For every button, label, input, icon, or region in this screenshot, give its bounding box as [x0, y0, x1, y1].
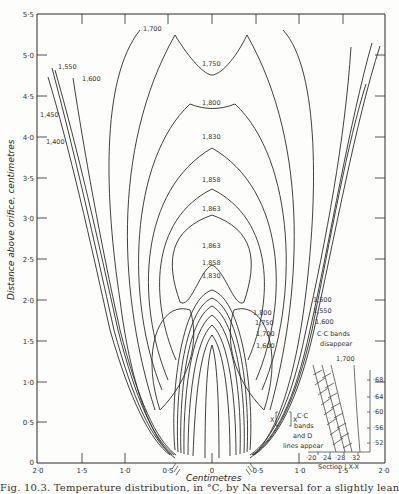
svg-text:4·0: 4·0: [23, 134, 34, 142]
svg-text:C·C bands: C·C bands: [317, 330, 351, 338]
svg-text:1,800: 1,800: [202, 99, 221, 107]
y-axis-label: Distance above orifice, centimetres: [6, 139, 16, 300]
svg-text:1,600: 1,600: [82, 75, 101, 83]
svg-text:1,750: 1,750: [255, 319, 274, 327]
svg-text:1,700: 1,700: [256, 330, 275, 338]
bottom-ticks: [82, 453, 299, 463]
top-ticks: [82, 14, 343, 24]
svg-text:·20: ·20: [306, 454, 316, 462]
svg-text:lines appear: lines appear: [283, 442, 323, 450]
svg-text:disappear: disappear: [320, 340, 353, 348]
svg-text:1,400: 1,400: [46, 138, 65, 146]
svg-text:1·0: 1·0: [119, 467, 130, 475]
svg-text:C·C: C·C: [297, 412, 309, 420]
svg-text:·32: ·32: [350, 454, 360, 462]
svg-text:·28: ·28: [335, 454, 345, 462]
svg-text:Section | X-X: Section | X-X: [318, 463, 360, 471]
svg-text:1,830: 1,830: [202, 272, 221, 280]
svg-text:1·5: 1·5: [76, 467, 87, 475]
svg-text:0·5: 0·5: [252, 467, 263, 475]
svg-text:1,858: 1,858: [202, 259, 221, 267]
contour-labels: 1,700 1,550 1,600 1,450 1,400 1,750 1,80…: [40, 25, 275, 350]
svg-text:3·0: 3·0: [23, 215, 34, 223]
svg-text:X: X: [270, 416, 275, 424]
svg-text:1,800: 1,800: [253, 309, 272, 317]
svg-text:1·0: 1·0: [23, 379, 34, 387]
svg-text:1,550: 1,550: [58, 63, 77, 71]
svg-text:2·5: 2·5: [23, 256, 34, 264]
svg-text:1,700: 1,700: [143, 25, 162, 33]
svg-text:1,550: 1,550: [313, 307, 332, 315]
svg-text:·52: ·52: [373, 439, 383, 447]
svg-text:0: 0: [30, 459, 34, 467]
svg-text:1·0: 1·0: [294, 467, 305, 475]
svg-text:3·5: 3·5: [23, 175, 34, 183]
svg-text:·68: ·68: [373, 376, 383, 384]
svg-text:bands: bands: [294, 422, 314, 430]
svg-text:1·5: 1·5: [23, 338, 34, 346]
svg-text:1,600: 1,600: [315, 318, 334, 326]
svg-text:1,750: 1,750: [202, 60, 221, 68]
svg-text:5·5: 5·5: [23, 11, 34, 19]
svg-text:5·0: 5·0: [23, 52, 34, 60]
svg-text:·60: ·60: [373, 408, 383, 416]
svg-text:·24: ·24: [321, 454, 331, 462]
svg-text:2·0: 2·0: [32, 467, 43, 475]
contour-chart: 5·5 5·0 4·5 4·0 3·5 3·0 2·5 2·0 1·5 1·0 …: [0, 0, 399, 494]
svg-text:1,830: 1,830: [202, 133, 221, 141]
svg-text:·64: ·64: [373, 393, 383, 401]
svg-text:4·5: 4·5: [23, 93, 34, 101]
svg-text:1,450: 1,450: [40, 111, 59, 119]
svg-text:2·0: 2·0: [23, 297, 34, 305]
svg-text:and D: and D: [293, 432, 312, 440]
svg-text:2·0: 2·0: [378, 467, 389, 475]
svg-text:1,863: 1,863: [202, 205, 221, 213]
y-tick-labels: 5·5 5·0 4·5 4·0 3·5 3·0 2·5 2·0 1·5 1·0 …: [23, 11, 34, 467]
svg-text:0·5: 0·5: [162, 467, 173, 475]
inset-section: 1,500 1,550 1,600 C·C bands disappear 1,…: [283, 296, 383, 471]
svg-text:1,500: 1,500: [313, 296, 332, 304]
figure-caption: Fig. 10.3. Temperature distribution, in …: [0, 482, 399, 493]
right-ticks: [375, 55, 385, 382]
svg-text:·56: ·56: [373, 424, 383, 432]
svg-text:1,600: 1,600: [256, 342, 275, 350]
svg-text:1,863: 1,863: [202, 242, 221, 250]
svg-text:1,858: 1,858: [202, 176, 221, 184]
svg-text:0·5: 0·5: [23, 419, 34, 427]
svg-text:1,700: 1,700: [336, 355, 355, 363]
